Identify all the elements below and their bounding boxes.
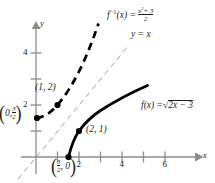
inverse-eq-argument: (x): [117, 10, 128, 20]
inverse-eq-numerator: x2+ 3: [138, 7, 153, 14]
graph-svg: [0, 0, 215, 183]
paren-open-icon: (: [0, 107, 5, 120]
x-tick-label-4: 4: [120, 160, 125, 169]
point-label-1-2: (1, 2): [35, 83, 56, 93]
identity-line-label: y = x: [131, 30, 151, 40]
x-tick-label-2: 2: [77, 160, 82, 169]
function-inverse-graph-figure: x y 2 4 6 2 4 f−1(x) = x2+ 3 2 y = x f(x…: [0, 0, 215, 183]
point-x-denominator: 2: [57, 165, 60, 173]
axes-group: [21, 21, 204, 174]
inverse-function-equation: f−1(x) = x2+ 3 2: [107, 8, 153, 24]
function-equation: f(x) =√2x − 3: [141, 100, 193, 111]
y-axis-arrowhead: [32, 21, 41, 29]
paren-close-icon-2: ): [70, 160, 76, 173]
inverse-eq-fraction: x2+ 3 2: [138, 7, 153, 23]
inverse-eq-superscript: −1: [110, 8, 117, 15]
y-axis-label: y: [40, 19, 44, 28]
function-eq-radicand: 2x − 3: [168, 100, 193, 111]
paren-close-icon: ): [16, 107, 22, 120]
function-eq-radical-group: √2x − 3: [163, 100, 193, 111]
inverse-eq-denominator: 2: [138, 14, 153, 22]
function-eq-lhs: f(x): [141, 100, 154, 110]
x-tick-label-6: 6: [163, 160, 168, 169]
point-marker-1-2: [54, 102, 60, 108]
point-label-three-halves-0: (32, 0): [51, 159, 76, 174]
point-label-2-1: (2, 1): [86, 125, 107, 135]
inverse-eq-num-rest: + 3: [144, 7, 154, 14]
function-curve: [69, 86, 148, 158]
point-marker-2-1: [76, 128, 82, 134]
x-axis-label: x: [203, 151, 207, 160]
y-tick-label-4: 4: [23, 48, 28, 57]
point-marker-0-three-halves: [34, 115, 40, 121]
inverse-eq-equals: =: [129, 10, 135, 20]
point-x-rest: , 0: [60, 161, 70, 171]
point-x-numerator: 3: [57, 158, 60, 165]
point-label-0-three-halves: (0,32): [0, 106, 22, 121]
point-x-fraction: 32: [57, 158, 60, 173]
inverse-function-curve: [37, 24, 99, 119]
y-tick-label-2: 2: [23, 100, 28, 109]
